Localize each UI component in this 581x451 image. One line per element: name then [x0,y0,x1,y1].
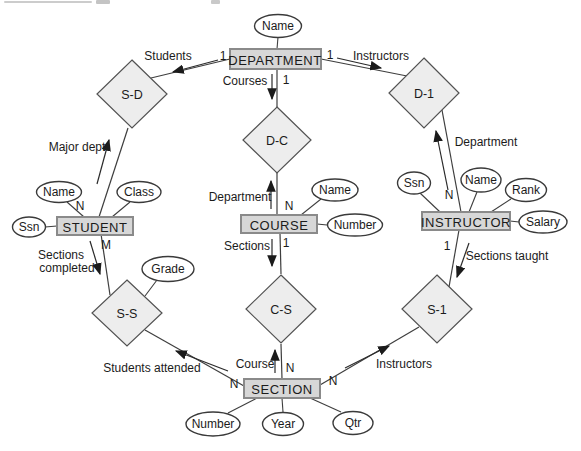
edge-label-courses: Courses [223,74,268,88]
edge-section-cs [281,344,282,379]
er-diagram-canvas: S-D D-1 D-C S-S C-S S-1 DEPARTMENT [0,0,581,451]
edge-label-instructors-bottom: Instructors [376,357,432,371]
relationship-c-s: C-S [246,275,316,343]
edge-label-instructors-top: Instructors [353,49,409,63]
connector-instructor-rank [491,199,511,212]
attribute-instructor-name-label: Name [465,173,497,187]
edge-label-major-dept: Major dept [49,140,106,154]
attribute-grade-label: Grade [151,262,185,276]
attribute-section-year: Year [263,413,304,436]
entity-section: SECTION [244,379,320,398]
relationship-s-d: S-D [97,60,167,128]
attribute-course-number: Number [328,214,383,236]
attribute-student-class: Class [117,182,161,203]
attribute-section-qtr: Qtr [333,412,373,435]
relationship-s-1: S-1 [402,275,472,343]
entity-student-label: STUDENT [63,220,128,235]
edge-label-students: Students [144,49,191,63]
attribute-course-name-label: Name [319,183,351,197]
cardinality-department-dc: 1 [283,73,290,87]
cardinality-instructor-d1: N [445,188,454,202]
relationship-d-1-label: D-1 [414,87,434,101]
connector-section-year [282,398,283,412]
attribute-instructor-salary: Salary [519,211,567,233]
attribute-section-year-label: Year [271,417,295,431]
entity-instructor: INSTRUCTOR [421,212,511,230]
cardinality-course-cs: 1 [283,236,290,250]
relationship-d-c: D-C [243,107,311,173]
attribute-course-number-label: Number [334,218,377,232]
edge-instructor-s1 [449,230,459,287]
relationship-s-s: S-S [92,280,162,346]
connector-instructor-name [469,192,477,212]
edge-label-sections-completed-line1: Sections [38,248,84,262]
entity-department-label: DEPARTMENT [228,53,321,68]
edge-label-course-bottom: Course [236,357,275,371]
attribute-department-name-label: Name [262,19,294,33]
attribute-course-name: Name [312,179,358,201]
connector-grade [145,280,157,296]
entity-department: DEPARTMENT [228,49,321,69]
edge-course-cs [280,233,281,274]
connector-instructor-ssn [420,193,440,212]
attribute-instructor-salary-label: Salary [526,215,560,229]
edge-label-students-attended: Students attended [103,361,200,375]
cardinality-section-cs: N [286,361,295,375]
attribute-section-qtr-label: Qtr [345,416,362,430]
relationship-s-s-label: S-S [117,307,138,321]
connector-instructor-salary [510,221,519,222]
connector-course-name [301,199,321,215]
attribute-grade: Grade [142,257,194,282]
cardinality-student-ss: M [101,238,111,252]
edge-label-sections-taught: Sections taught [466,249,549,263]
attribute-student-ssn-label: Ssn [19,220,40,234]
connector-section-qtr [310,398,341,412]
relationship-s-d-label: S-D [121,88,143,102]
attribute-instructor-ssn: Ssn [398,172,431,194]
cardinality-course-dc: N [285,199,294,213]
cardinality-section-s1: N [329,374,338,388]
connector-course-number [317,224,327,225]
attribute-student-ssn: Ssn [13,217,46,237]
edge-label-department-right: Department [455,135,518,149]
cardinality-instructor-s1: 1 [444,239,451,253]
connector-student-ssn [45,226,57,227]
entity-instructor-label: INSTRUCTOR [421,215,511,230]
attribute-department-name: Name [255,15,302,38]
relationship-c-s-label: C-S [270,303,292,317]
attribute-section-number-label: Number [192,417,235,431]
relationship-s-1-label: S-1 [427,303,447,317]
edge-label-sections-completed-line2: completed [39,261,94,275]
cardinality-department-d1: 1 [327,48,334,62]
edge-label-sections-center: Sections [224,239,270,253]
er-diagram-svg: S-D D-1 D-C S-S C-S S-1 DEPARTMENT [0,0,581,451]
cardinality-section-ss: N [230,377,239,391]
edge-label-department-center: Department [209,190,272,204]
entity-student: STUDENT [57,217,133,235]
attribute-student-name-label: Name [43,185,75,199]
arrow-department-right [436,131,448,190]
relationship-d-c-label: D-C [266,134,288,148]
attribute-instructor-ssn-label: Ssn [404,176,425,190]
entity-course-label: COURSE [250,218,309,233]
attribute-section-number: Number [186,412,240,436]
connector-department-name [277,37,278,49]
connector-section-number [228,398,257,413]
connector-student-class [112,202,130,217]
attribute-instructor-rank: Rank [506,179,547,202]
attribute-student-class-label: Class [124,185,154,199]
entity-section-label: SECTION [251,382,312,397]
cardinality-department-sd: 1 [220,49,227,63]
relationship-d-1: D-1 [389,58,459,128]
entity-course: COURSE [241,215,317,233]
attribute-instructor-rank-label: Rank [512,183,541,197]
attribute-instructor-name: Name [461,168,501,192]
cardinality-student-sd: N [76,199,85,213]
